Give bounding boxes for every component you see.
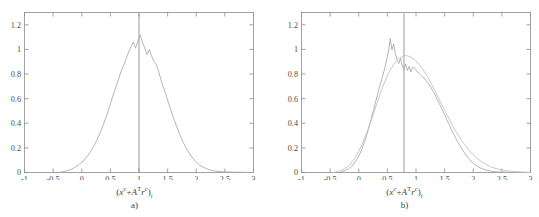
xtick-label: 1 [137,175,141,180]
plot-b-xtick-labels: -1-0.500.511.522.53 [298,175,532,180]
figure-container: 00.20.40.60.811.2 -1-0.500.511.522.53 (x… [0,0,539,217]
xtick-label: 3 [528,175,532,180]
ytick-label: 0.4 [11,119,21,128]
xtick-label: 3 [251,175,255,180]
ytick-label: 0.4 [288,119,298,128]
ytick-label: 1 [17,45,21,54]
xtick-label: 1 [414,175,418,180]
ytick-label: 0.6 [11,95,21,104]
plot-a-svg: 00.20.40.60.811.2 -1-0.500.511.522.53 [0,0,269,180]
ytick-label: 0.2 [11,144,21,153]
xtick-label: 1.5 [163,175,173,180]
ytick-label: 1 [294,45,298,54]
panel-a-caption: a) [0,200,269,210]
xtick-label: -0.5 [324,175,337,180]
xtick-label: 0 [357,175,361,180]
plot-b-frame [302,13,531,173]
xtick-label: 0.5 [105,175,115,180]
xtick-label: 2 [194,175,198,180]
xtick-label: 1.5 [440,175,450,180]
panel-b-caption: b) [270,200,539,210]
xtick-label: -1 [21,175,28,180]
plot-a-ytick-labels: 00.20.40.60.811.2 [11,21,21,178]
ytick-label: 0.8 [288,70,298,79]
plot-a-xaxis-label: (xc+ATrc)i [0,185,269,199]
xtick-label: 2 [471,175,475,180]
panel-a: 00.20.40.60.811.2 -1-0.500.511.522.53 (x… [0,0,269,217]
xtick-label: 0 [80,175,84,180]
panel-b: 00.20.40.60.811.2 -1-0.500.511.522.53 (x… [270,0,539,217]
ytick-label: 1.2 [288,21,298,30]
plot-b-ytick-labels: 00.20.40.60.811.2 [288,21,298,178]
ytick-label: 1.2 [11,21,21,30]
xtick-label: -0.5 [47,175,60,180]
plot-a-xtick-labels: -1-0.500.511.522.53 [21,175,255,180]
ytick-label: 0.8 [11,70,21,79]
ytick-label: 0.2 [288,144,298,153]
plot-b-svg: 00.20.40.60.811.2 -1-0.500.511.522.53 [270,0,539,180]
xtick-label: 2.5 [220,175,230,180]
xtick-label: 0.5 [382,175,392,180]
plot-b-xaxis-label: (xc+ATrc)i [270,185,539,199]
xtick-label: 2.5 [497,175,507,180]
xtick-label: -1 [298,175,305,180]
ytick-label: 0.6 [288,95,298,104]
